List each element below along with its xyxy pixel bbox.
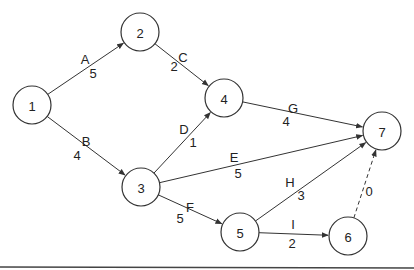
activity-label: E xyxy=(230,150,239,165)
node-label: 2 xyxy=(136,26,143,41)
edge-dummy: 0 xyxy=(354,150,376,218)
network-diagram: A5B4C2D1E5F5G4H3I20 1234567 xyxy=(0,0,414,270)
node-2: 2 xyxy=(121,13,159,51)
activity-label: C xyxy=(178,50,187,65)
node-5: 5 xyxy=(221,213,259,251)
edge-a: A5 xyxy=(48,43,124,94)
node-1: 1 xyxy=(13,86,51,124)
duration-label: 5 xyxy=(176,211,183,226)
node-7: 7 xyxy=(363,112,401,150)
duration-label: 5 xyxy=(234,166,241,181)
edge-c: C2 xyxy=(155,44,208,86)
activity-label: B xyxy=(82,134,91,149)
node-6: 6 xyxy=(329,217,367,255)
duration-label: 1 xyxy=(189,135,196,150)
activity-label: I xyxy=(291,217,295,232)
node-label: 3 xyxy=(137,181,144,196)
activity-label: F xyxy=(186,200,194,215)
edge-f: F5 xyxy=(158,195,221,226)
bottom-rule xyxy=(0,267,414,268)
node-label: 1 xyxy=(28,99,35,114)
arrow-line xyxy=(243,102,363,127)
node-label: 7 xyxy=(378,125,385,140)
duration-label: 0 xyxy=(365,184,372,199)
edge-i: I2 xyxy=(259,217,328,251)
node-label: 5 xyxy=(236,226,243,241)
activity-label: D xyxy=(179,122,188,137)
edge-g: G4 xyxy=(243,101,363,129)
node-3: 3 xyxy=(122,168,160,206)
arrow-line xyxy=(255,143,365,221)
node-label: 6 xyxy=(344,230,351,245)
edge-d: D1 xyxy=(154,113,210,173)
duration-label: 2 xyxy=(170,59,177,74)
edges-layer: A5B4C2D1E5F5G4H3I20 xyxy=(47,43,376,251)
edge-b: B4 xyxy=(47,116,125,175)
node-4: 4 xyxy=(205,79,243,117)
duration-label: 4 xyxy=(73,148,80,163)
duration-label: 4 xyxy=(282,114,289,129)
duration-label: 2 xyxy=(288,236,295,251)
duration-label: 3 xyxy=(297,188,304,203)
arrow-line xyxy=(48,43,124,94)
activity-label: H xyxy=(285,175,294,190)
arrow-line xyxy=(259,233,328,236)
node-label: 4 xyxy=(220,92,227,107)
duration-label: 5 xyxy=(89,66,96,81)
edge-h: H3 xyxy=(255,143,365,221)
activity-label: A xyxy=(81,52,90,67)
